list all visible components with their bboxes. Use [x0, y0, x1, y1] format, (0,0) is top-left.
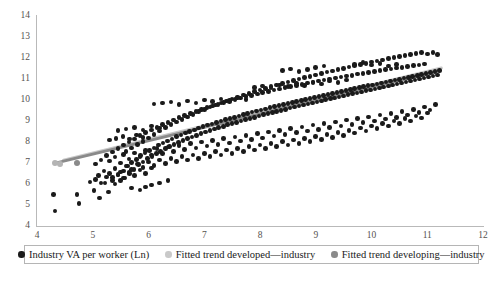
trend-endpoint-marker: [57, 161, 63, 167]
legend-item[interactable]: Fitted trend developing—industry: [331, 249, 484, 260]
scatter-point: [99, 181, 104, 186]
scatter-point: [191, 153, 196, 158]
scatter-point: [114, 136, 119, 141]
chart-legend: Industry VA per worker (Ln)Fitted trend …: [24, 245, 479, 264]
scatter-point: [249, 137, 254, 142]
scatter-point: [224, 148, 229, 153]
scatter-point: [51, 192, 56, 197]
x-tick-label: 9: [304, 231, 328, 241]
scatter-point: [394, 62, 399, 67]
scatter-point: [134, 133, 139, 138]
scatter-point: [405, 64, 410, 69]
scatter-point: [121, 152, 126, 157]
scatter-point: [213, 149, 218, 154]
scatter-point: [386, 64, 391, 69]
scatter-point: [174, 159, 179, 164]
scatter-point: [311, 123, 316, 128]
y-tick-label: 9: [8, 116, 30, 126]
scatter-point: [205, 105, 210, 110]
scatter-point: [227, 141, 232, 146]
scatter-point: [113, 166, 118, 171]
scatter-point: [361, 120, 366, 125]
scatter-point: [403, 116, 408, 121]
scatter-point: [327, 125, 332, 130]
scatter-point: [160, 151, 165, 156]
scatter-point: [188, 111, 193, 116]
scatter-point: [160, 101, 165, 106]
scatter-point: [369, 63, 374, 68]
scatter-point: [138, 188, 143, 193]
scatter-point: [300, 125, 305, 130]
scatter-point: [75, 192, 80, 197]
scatter-point: [408, 119, 413, 124]
scatter-point: [361, 71, 366, 76]
scatter-point: [319, 71, 324, 76]
y-tick-label: 12: [8, 53, 30, 63]
scatter-point: [305, 67, 310, 72]
scatter-point: [127, 170, 132, 175]
scatter-point: [333, 120, 338, 125]
scatter-point: [252, 148, 257, 153]
scatter-point: [397, 54, 402, 59]
scatter-point: [435, 52, 440, 57]
scatter-point: [135, 142, 140, 147]
legend-marker-icon: [18, 251, 25, 258]
scatter-point: [143, 148, 148, 153]
scatter-point: [185, 158, 190, 163]
scatter-point: [244, 97, 249, 102]
legend-marker-icon: [331, 251, 338, 258]
legend-label: Fitted trend developed—industry: [176, 249, 315, 260]
scatter-point: [121, 176, 126, 181]
scatter-point: [366, 115, 371, 120]
scatter-point: [344, 118, 349, 123]
legend-item[interactable]: Fitted trend developed—industry: [165, 249, 315, 260]
x-tick-label: 5: [81, 231, 105, 241]
scatter-point: [132, 151, 137, 156]
scatter-point: [132, 173, 137, 178]
y-tick-label: 14: [8, 11, 30, 21]
scatter-point: [238, 139, 243, 144]
scatter-point: [92, 188, 97, 193]
figure-scatter-industry-va: 4567891011121314 456789101112 Industry V…: [0, 0, 503, 282]
scatter-point: [255, 92, 260, 97]
scatter-point: [107, 159, 112, 164]
scatter-point: [411, 107, 416, 112]
scatter-point: [110, 150, 115, 155]
scatter-point: [149, 153, 154, 158]
scatter-point: [433, 102, 438, 107]
scatter-point: [260, 136, 265, 141]
scatter-point: [141, 135, 146, 140]
scatter-point: [141, 139, 146, 144]
scatter-point: [129, 160, 134, 165]
scatter-point: [102, 169, 107, 174]
scatter-point: [152, 102, 157, 107]
trend-endpoint-marker: [74, 160, 80, 166]
scatter-point: [113, 155, 118, 160]
scatter-point: [322, 64, 327, 69]
scatter-point: [310, 101, 315, 106]
y-tick-label: 6: [8, 179, 30, 189]
scatter-point: [196, 156, 201, 161]
scatter-point: [104, 153, 109, 158]
scatter-point: [302, 83, 307, 88]
scatter-point: [255, 131, 260, 136]
scatter-point: [325, 132, 330, 137]
scatter-point: [392, 119, 397, 124]
scatter-point: [378, 68, 383, 73]
scatter-point: [400, 65, 405, 70]
x-tick-label: 7: [192, 231, 216, 241]
scatter-point: [235, 146, 240, 151]
legend-item[interactable]: Industry VA per worker (Ln): [18, 249, 149, 260]
y-tick-label: 10: [8, 95, 30, 105]
scatter-point: [425, 52, 430, 57]
scatter-point: [182, 113, 187, 118]
scatter-point: [288, 126, 293, 131]
x-tick-label: 10: [360, 231, 384, 241]
scatter-point: [350, 122, 355, 127]
scatter-point: [422, 62, 427, 67]
scatter-point: [274, 144, 279, 149]
scatter-point: [375, 126, 380, 131]
scatter-point: [202, 98, 207, 103]
scatter-point: [426, 75, 431, 80]
scatter-point: [53, 209, 58, 214]
